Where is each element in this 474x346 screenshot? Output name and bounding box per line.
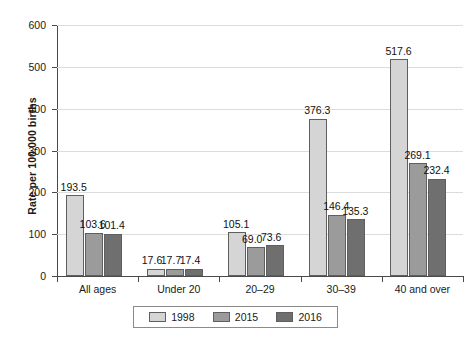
x-axis-line	[57, 276, 464, 277]
bar-group: 193.5103.6101.4	[57, 25, 138, 276]
bar-value-label: 517.6	[385, 46, 411, 57]
bar-value-label: 73.6	[261, 232, 281, 243]
x-axis-tick	[463, 277, 464, 282]
x-axis-tick	[138, 277, 139, 282]
bar[interactable]	[266, 245, 284, 276]
bar[interactable]	[247, 247, 265, 276]
x-axis-tick	[57, 277, 58, 282]
y-axis-tick-label: 500	[6, 62, 46, 73]
bar-value-label: 193.5	[61, 182, 87, 193]
bar-value-label: 69.0	[242, 234, 262, 245]
bar-group: 376.3146.4135.3	[301, 25, 382, 276]
legend: 199820152016	[133, 306, 338, 328]
y-axis-tick-label: 300	[6, 146, 46, 157]
bar-chart: Rate per 100,000 births 0100200300400500…	[0, 0, 474, 346]
x-axis-category-label: All ages	[57, 284, 138, 295]
bar[interactable]	[409, 163, 427, 276]
legend-label: 1998	[171, 312, 194, 323]
y-axis-tick-label: 600	[6, 20, 46, 31]
x-axis-tick	[219, 277, 220, 282]
legend-item[interactable]: 2015	[213, 312, 258, 323]
legend-label: 2015	[235, 312, 258, 323]
bar-group: 517.6269.1232.4	[382, 25, 463, 276]
bars-layer: 193.5103.6101.417.617.717.4105.169.073.6…	[57, 25, 463, 276]
bar[interactable]	[347, 219, 365, 276]
y-axis-tick-label: 200	[6, 187, 46, 198]
bar[interactable]	[328, 215, 346, 276]
x-axis-category-label: Under 20	[138, 284, 219, 295]
bar-group: 105.169.073.6	[219, 25, 300, 276]
x-axis-category-label: 20–29	[219, 284, 300, 295]
bar-value-label: 232.4	[423, 165, 449, 176]
legend-item[interactable]: 1998	[149, 312, 194, 323]
bar[interactable]	[147, 269, 165, 276]
legend-swatch-icon	[213, 312, 230, 322]
x-axis-category-label: 30–39	[301, 284, 382, 295]
legend-swatch-icon	[149, 312, 166, 322]
bar[interactable]	[66, 195, 84, 276]
legend-item[interactable]: 2016	[276, 312, 321, 323]
legend-label: 2016	[298, 312, 321, 323]
bar-group: 17.617.717.4	[138, 25, 219, 276]
bar[interactable]	[85, 233, 103, 276]
bar[interactable]	[185, 269, 203, 276]
plot-area: 193.5103.6101.417.617.717.4105.169.073.6…	[57, 25, 463, 276]
x-axis-tick	[382, 277, 383, 282]
x-axis-tick	[301, 277, 302, 282]
bar[interactable]	[390, 59, 408, 276]
bar[interactable]	[309, 119, 327, 276]
bar[interactable]	[428, 179, 446, 276]
bar-value-label: 17.7	[161, 255, 181, 266]
y-axis-tick-label: 100	[6, 229, 46, 240]
bar-value-label: 105.1	[223, 219, 249, 230]
bar-value-label: 135.3	[342, 206, 368, 217]
bar-value-label: 17.6	[142, 255, 162, 266]
bar[interactable]	[104, 234, 122, 276]
y-axis-tick-label: 400	[6, 104, 46, 115]
y-axis-tick-label: 0	[6, 271, 46, 282]
bar-value-label: 376.3	[304, 105, 330, 116]
bar-value-label: 17.4	[180, 255, 200, 266]
bar[interactable]	[166, 269, 184, 276]
legend-swatch-icon	[276, 312, 293, 322]
x-axis-category-label: 40 and over	[382, 284, 463, 295]
bar-value-label: 101.4	[99, 220, 125, 231]
bar-value-label: 269.1	[404, 150, 430, 161]
